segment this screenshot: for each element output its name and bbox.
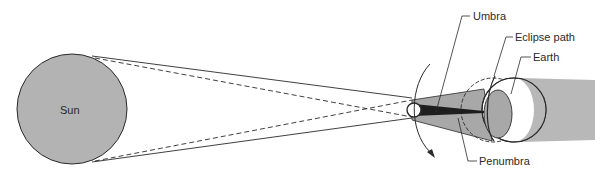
inner-tangent-top <box>95 58 412 117</box>
eclipse-path-label: Eclipse path <box>515 31 575 43</box>
earth-label: Earth <box>533 51 559 63</box>
eclipse-path-leader <box>494 37 513 76</box>
inner-tangent-bottom <box>95 100 412 161</box>
umbra-label: Umbra <box>473 10 507 22</box>
eclipse-diagram: Sun Umbra Eclipse path Earth Penumbra <box>0 0 609 180</box>
sun-label: Sun <box>60 104 80 116</box>
outer-tangent-top <box>92 56 412 98</box>
penumbra-label: Penumbra <box>479 155 531 167</box>
outer-tangent-bottom <box>92 118 412 162</box>
